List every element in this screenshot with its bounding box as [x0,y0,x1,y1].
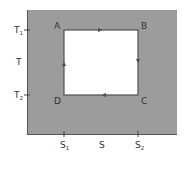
label-t2: T2 [13,90,23,101]
label-s1: S1 [60,140,69,151]
corner-c: C [141,96,147,106]
label-t1: T1 [13,25,23,36]
cycle-rectangle [64,30,138,95]
corner-b: B [141,21,147,31]
ts-diagram: T1 T T2 S1 S S2 A B C D [0,0,187,169]
x-axis-label: S [99,140,105,150]
corner-a: A [54,21,61,31]
corner-d: D [54,96,61,106]
y-axis-label: T [15,57,22,67]
label-s2: S2 [135,140,144,151]
